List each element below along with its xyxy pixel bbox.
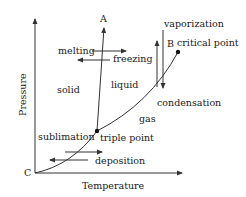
vaporization-label: vaporization <box>163 18 224 29</box>
x-axis-label: Temperature <box>82 180 145 191</box>
solid-label: solid <box>57 84 80 95</box>
critical-point-label: critical point <box>177 37 239 48</box>
point-a-label: A <box>99 13 107 24</box>
deposition-label: deposition <box>95 155 145 166</box>
liquid-label: liquid <box>111 79 138 90</box>
critical-point-dot <box>176 50 180 54</box>
melting-curve <box>97 28 104 131</box>
condensation-label: condensation <box>157 97 221 108</box>
triple-point-label: triple point <box>100 132 154 143</box>
melting-label: melting <box>58 45 95 56</box>
sublimation-label: sublimation <box>38 131 95 142</box>
freezing-label: freezing <box>113 53 153 64</box>
triple-point-dot <box>95 129 99 133</box>
point-b-label: B <box>167 38 174 49</box>
phase-diagram: A B critical point vaporization melting … <box>0 0 246 197</box>
origin-label: C <box>24 167 31 178</box>
y-axis-label: Pressure <box>17 73 28 116</box>
gas-label: gas <box>139 113 156 124</box>
